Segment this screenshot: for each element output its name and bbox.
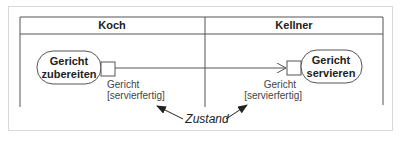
action-label-line1: Gericht xyxy=(312,54,351,66)
annotation-arrow-right xyxy=(226,105,247,119)
input-pin xyxy=(287,61,301,75)
output-pin xyxy=(101,62,115,76)
action-label-line2: zubereiten xyxy=(41,68,96,80)
output-pin-state: [servierfertig] xyxy=(107,90,165,101)
action-label-line2: servieren xyxy=(307,67,356,79)
activity-diagram: Koch Kellner Gericht zubereiten Gericht … xyxy=(0,0,400,141)
lane-title-kellner: Kellner xyxy=(275,19,313,31)
action-gericht-zubereiten: Gericht zubereiten xyxy=(37,51,101,84)
annotation-arrow-left xyxy=(157,106,183,119)
action-label-line1: Gericht xyxy=(50,55,89,67)
input-pin-name: Gericht xyxy=(264,79,296,90)
input-pin-state: [servierfertig] xyxy=(244,90,302,101)
action-gericht-servieren: Gericht servieren xyxy=(301,50,362,83)
annotation-zustand: Zustand xyxy=(184,112,229,126)
lane-title-koch: Koch xyxy=(98,19,126,31)
output-pin-name: Gericht xyxy=(107,79,139,90)
